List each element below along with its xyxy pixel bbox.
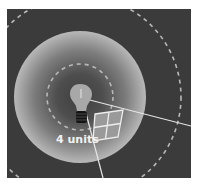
distance-label: 4 units xyxy=(56,134,99,146)
inverse-square-diagram xyxy=(0,0,202,190)
